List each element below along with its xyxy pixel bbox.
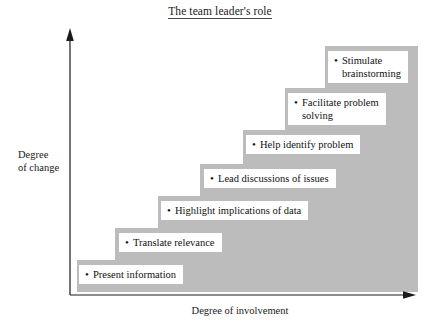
y-axis-label: Degree of change bbox=[18, 149, 70, 174]
x-axis-label: Degree of involvement bbox=[140, 305, 340, 318]
bullet-icon-5: • bbox=[252, 138, 260, 151]
step-label-text-4: Lead discussions of issues bbox=[218, 172, 329, 185]
step-label-7[interactable]: •Stimulate brainstorming bbox=[328, 51, 408, 83]
step-label-6[interactable]: •Facilitate problem solving bbox=[288, 93, 386, 125]
step-label-4[interactable]: •Lead discussions of issues bbox=[204, 169, 336, 188]
step-label-3[interactable]: •Highlight implications of data bbox=[161, 201, 308, 220]
step-label-text-6: Facilitate problem solving bbox=[302, 96, 379, 122]
step-label-5[interactable]: •Help identify problem bbox=[246, 135, 360, 154]
step-label-text-2: Translate relevance bbox=[133, 236, 215, 249]
bullet-icon-4: • bbox=[210, 172, 218, 185]
step-label-text-3: Highlight implications of data bbox=[175, 204, 301, 217]
bullet-icon-1: • bbox=[85, 268, 93, 281]
step-label-text-7: Stimulate brainstorming bbox=[342, 54, 401, 80]
step-label-text-1: Present information bbox=[93, 268, 176, 281]
step-label-1[interactable]: •Present information bbox=[79, 265, 183, 284]
bullet-icon-2: • bbox=[125, 236, 133, 249]
bullet-icon-3: • bbox=[167, 204, 175, 217]
diagram-canvas: The team leader's role Degree of change … bbox=[0, 0, 440, 323]
bullet-icon-7: • bbox=[334, 54, 342, 67]
step-label-text-5: Help identify problem bbox=[260, 138, 353, 151]
bullet-icon-6: • bbox=[294, 96, 302, 109]
step-label-2[interactable]: •Translate relevance bbox=[119, 233, 222, 252]
